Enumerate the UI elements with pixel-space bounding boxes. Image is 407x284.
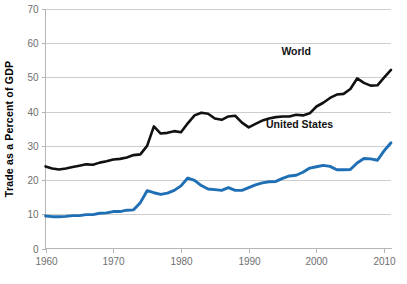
chart-figure: 010203040506070 196019701980199020002010… [0,0,407,284]
trade-percent-gdp-line-chart: 010203040506070 196019701980199020002010… [0,0,407,284]
world-series-label: World [281,45,311,57]
y-tick-label-10: 10 [27,209,39,220]
united-states-series-label: United States [266,118,333,130]
y-tick-label-20: 20 [27,175,39,186]
x-tick-label-1970: 1970 [102,256,125,267]
y-tick-label-60: 60 [27,38,39,49]
y-tick-label-50: 50 [27,72,39,83]
chart-background [0,0,407,284]
x-tick-label-1960: 1960 [35,256,58,267]
x-tick-label-2010: 2010 [373,256,396,267]
y-tick-label-40: 40 [27,107,39,118]
x-tick-label-1990: 1990 [238,256,261,267]
x-tick-label-1980: 1980 [170,256,193,267]
y-tick-label-70: 70 [27,4,39,15]
y-tick-label-30: 30 [27,141,39,152]
y-axis-title: Trade as a Percent of GDP [3,61,15,197]
x-tick-label-2000: 2000 [305,256,328,267]
y-tick-label-0: 0 [33,244,39,255]
